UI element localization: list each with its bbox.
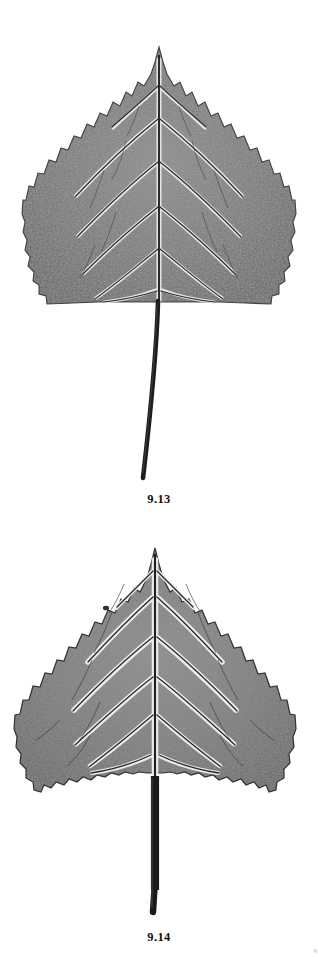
leaf-specimen-image-9-14 bbox=[0, 520, 318, 957]
figure-caption-9-13: 9.13 bbox=[0, 492, 318, 507]
figure-9-14 bbox=[0, 520, 318, 957]
specimen-plate: 9.13 bbox=[0, 0, 318, 957]
leaf-blemish-9-14 bbox=[103, 606, 109, 611]
leaf-specimen-image-9-13 bbox=[0, 0, 318, 520]
page-corner-mark: 9 bbox=[314, 948, 318, 955]
figure-9-13 bbox=[0, 0, 318, 520]
figure-caption-9-14: 9.14 bbox=[0, 930, 318, 945]
